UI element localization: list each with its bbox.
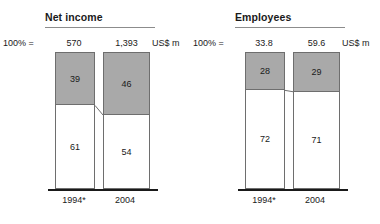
- x-tick-label-2004: 2004: [290, 195, 340, 205]
- title-underline-rule: [235, 27, 345, 28]
- chart-panel-employees: Employees 100% = 33.8 59.6 US$ m 28 72 2…: [190, 0, 380, 224]
- unit-label: US$ m: [152, 38, 180, 48]
- plot-area: 39 61 46 54: [55, 52, 150, 189]
- title-underline-rule: [45, 27, 155, 28]
- panel-title: Employees: [235, 11, 291, 23]
- x-tick-label-1994: 1994*: [50, 195, 98, 205]
- axis-baseline: [238, 189, 348, 191]
- total-value-1994: 33.8: [245, 38, 283, 48]
- total-value-2004: 1,393: [103, 38, 150, 48]
- percent-basis-label: 100% =: [193, 38, 224, 48]
- segment-connector-line: [55, 52, 150, 189]
- total-value-1994: 570: [55, 38, 93, 48]
- plot-area: 28 72 29 71: [245, 52, 340, 189]
- panel-title: Net income: [45, 11, 103, 23]
- segment-connector-line: [245, 52, 340, 189]
- chart-panel-net-income: Net income 100% = 570 1,393 US$ m 39 61 …: [0, 0, 190, 224]
- total-value-2004: 59.6: [293, 38, 340, 48]
- chart-canvas: Net income 100% = 570 1,393 US$ m 39 61 …: [0, 0, 380, 224]
- x-tick-label-2004: 2004: [100, 195, 150, 205]
- percent-basis-label: 100% =: [3, 38, 34, 48]
- x-tick-label-1994: 1994*: [240, 195, 288, 205]
- unit-label: US$ m: [342, 38, 370, 48]
- axis-baseline: [48, 189, 158, 191]
